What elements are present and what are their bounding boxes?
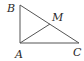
triangle-diagram: B M A C — [0, 0, 84, 61]
label-m: M — [51, 11, 64, 24]
label-a: A — [14, 48, 23, 61]
label-b: B — [6, 2, 15, 15]
segment-am — [20, 24, 50, 43]
label-c: C — [73, 46, 82, 59]
